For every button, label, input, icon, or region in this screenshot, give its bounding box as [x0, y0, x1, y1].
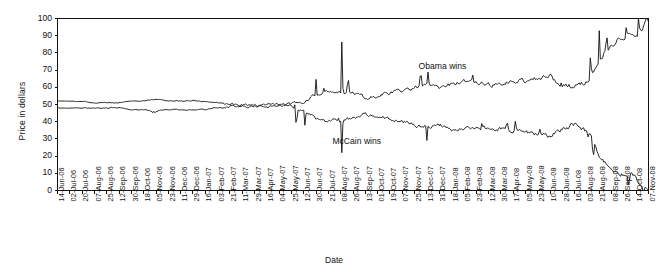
prediction-market-chart: Price in dollars Date 010203040506070809…	[0, 0, 668, 279]
annotation-obama-wins: Obama wins	[419, 61, 467, 71]
series-line-obama-wins	[58, 19, 649, 108]
series-line-mccain-wins	[58, 103, 649, 190]
annotation-mccain-wins: McCain wins	[332, 136, 381, 146]
axes	[55, 19, 649, 194]
